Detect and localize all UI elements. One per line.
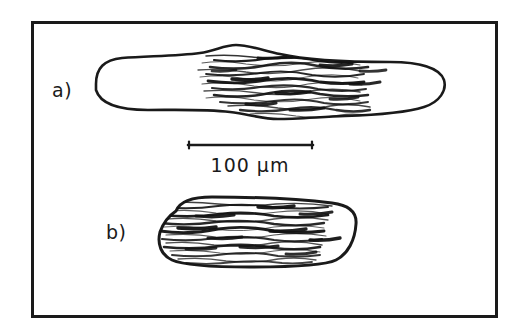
- figure-drawing: a) 100 μm b): [0, 0, 518, 334]
- panel-label-a: a): [52, 79, 72, 101]
- panel-b-group: [159, 197, 356, 267]
- figure-container: a) 100 μm b): [0, 0, 518, 334]
- panel-label-b: b): [106, 221, 126, 243]
- scale-bar-label: 100 μm: [211, 154, 290, 176]
